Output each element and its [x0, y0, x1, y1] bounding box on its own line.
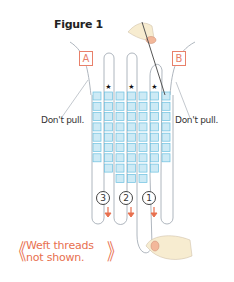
bead: [116, 123, 124, 131]
bead: [93, 113, 101, 121]
bead: [139, 123, 147, 131]
bead: [139, 133, 147, 141]
bead: [162, 144, 170, 152]
bracket-open: 《: [11, 240, 26, 264]
bead: [151, 123, 159, 131]
bead: [151, 144, 159, 152]
bead-grid: [93, 92, 170, 182]
bead: [151, 113, 159, 121]
step-1: 1: [142, 191, 156, 205]
bead: [128, 133, 136, 141]
bead: [105, 154, 113, 162]
bead: [139, 144, 147, 152]
bead: [139, 174, 147, 182]
bead: [116, 164, 124, 172]
bead: [116, 92, 124, 100]
star-icon: ★: [128, 83, 134, 91]
bead: [116, 113, 124, 121]
star-icon: ★: [151, 83, 157, 91]
bead: [151, 164, 159, 172]
bead: [93, 154, 101, 162]
bead: [162, 113, 170, 121]
bead: [128, 102, 136, 110]
bracket-close: 》: [107, 240, 122, 264]
bead: [128, 113, 136, 121]
bead: [116, 154, 124, 162]
bead: [128, 123, 136, 131]
bead: [151, 92, 159, 100]
pull-arrows: [105, 207, 157, 217]
bead: [105, 102, 113, 110]
bead: [116, 133, 124, 141]
bead: [139, 113, 147, 121]
bead: [93, 133, 101, 141]
bead: [128, 154, 136, 162]
bead: [128, 144, 136, 152]
bead: [93, 92, 101, 100]
bead: [162, 123, 170, 131]
bead: [139, 164, 147, 172]
bead: [105, 123, 113, 131]
bead: [105, 144, 113, 152]
step-2: 2: [119, 191, 133, 205]
bead: [162, 92, 170, 100]
bead: [116, 174, 124, 182]
step-3: 3: [96, 191, 110, 205]
bead: [93, 123, 101, 131]
bead: [128, 164, 136, 172]
bead: [162, 133, 170, 141]
bead: [116, 144, 124, 152]
weft-note: 《 Weft threads not shown. 》: [14, 240, 94, 264]
bead: [151, 154, 159, 162]
bead: [162, 154, 170, 162]
bead: [151, 102, 159, 110]
bead: [139, 92, 147, 100]
bead: [128, 92, 136, 100]
dont-pull-right: Don't pull.: [175, 115, 218, 125]
bead: [105, 164, 113, 172]
label-a: A: [79, 51, 93, 66]
bead: [93, 102, 101, 110]
bead: [116, 102, 124, 110]
bead: [105, 92, 113, 100]
label-b: B: [172, 51, 186, 66]
dont-pull-left: Don't pull.: [41, 115, 84, 125]
bead: [128, 174, 136, 182]
bead: [139, 102, 147, 110]
thread-b: [170, 42, 195, 95]
star-icon: ★: [105, 83, 111, 91]
bottom-hand: [146, 236, 192, 260]
bead: [105, 113, 113, 121]
bead: [162, 102, 170, 110]
bead: [151, 133, 159, 141]
bead: [105, 133, 113, 141]
thread-a: [70, 42, 91, 95]
bead: [139, 154, 147, 162]
bead: [93, 144, 101, 152]
